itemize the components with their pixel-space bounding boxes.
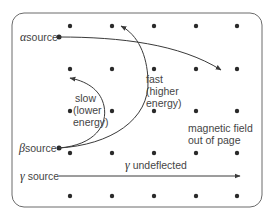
alpha-source-text: source bbox=[26, 31, 58, 43]
fast-label-line1: fast bbox=[146, 73, 182, 85]
slow-path-label: slow (lower energy) bbox=[73, 92, 109, 128]
beta-source-label: βsource bbox=[19, 142, 57, 154]
beta-fast-path-arrow bbox=[59, 26, 148, 148]
alpha-source-label: αsource bbox=[20, 31, 58, 43]
slow-label-line1: slow bbox=[73, 92, 109, 104]
slow-label-line3: energy) bbox=[73, 116, 109, 128]
magnetic-field-label: magnetic field out of page bbox=[188, 122, 253, 146]
field-label-line1: magnetic field bbox=[188, 122, 253, 134]
gamma-source-text: source bbox=[28, 170, 60, 182]
gamma-symbol: γ bbox=[20, 169, 25, 183]
field-label-line2: out of page bbox=[188, 134, 253, 146]
fast-path-label: fast (higher energy) bbox=[146, 73, 182, 109]
gamma-path-symbol: γ bbox=[125, 158, 130, 172]
alpha-path-arrow bbox=[59, 37, 221, 70]
fast-label-line2: (higher bbox=[146, 85, 182, 97]
fast-label-line3: energy) bbox=[146, 97, 182, 109]
gamma-undeflected-text: undeflected bbox=[133, 159, 187, 171]
gamma-source-label: γ source bbox=[20, 170, 59, 182]
beta-source-text: source bbox=[25, 142, 57, 154]
gamma-undeflected-label: γ undeflected bbox=[125, 159, 187, 171]
slow-label-line2: (lower bbox=[73, 104, 109, 116]
